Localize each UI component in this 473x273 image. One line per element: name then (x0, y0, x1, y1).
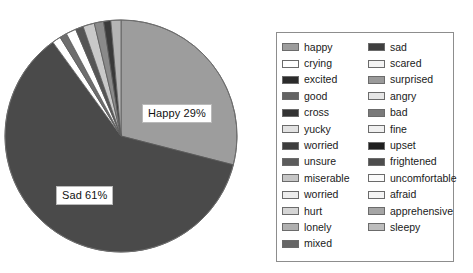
legend-item[interactable]: afraid (368, 187, 452, 203)
legend-item-label: worried (304, 140, 338, 151)
legend-columns: happycryingexcitedgoodcrossyuckyworriedu… (282, 39, 452, 257)
legend-item-label: fine (390, 124, 407, 135)
legend-item-label: mixed (304, 238, 332, 249)
legend-item[interactable]: sleepy (368, 219, 452, 235)
legend-item-label: sleepy (390, 222, 420, 233)
legend-item-label: lonely (304, 222, 331, 233)
legend-swatch-icon (368, 207, 385, 215)
legend-column: happycryingexcitedgoodcrossyuckyworriedu… (282, 39, 360, 257)
legend-swatch-icon (282, 223, 299, 231)
legend-item-label: afraid (390, 189, 416, 200)
legend-item[interactable]: fine (368, 121, 452, 137)
legend-swatch-icon (368, 174, 385, 182)
legend-item[interactable]: mixed (282, 236, 360, 252)
legend-item-label: excited (304, 74, 337, 85)
legend-item-label: yucky (304, 124, 331, 135)
pie-chart: Happy 29% Sad 61% (0, 0, 265, 273)
legend-item-label: unsure (304, 156, 336, 167)
legend-item[interactable]: happy (282, 39, 360, 55)
legend-item-label: miserable (304, 173, 350, 184)
legend-item-label: upset (390, 140, 416, 151)
legend-item[interactable]: lonely (282, 219, 360, 235)
legend-item[interactable]: good (282, 88, 360, 104)
legend-swatch-icon (368, 76, 385, 84)
legend-item-label: worried (304, 189, 338, 200)
legend-item[interactable]: uncomfortable (368, 170, 452, 186)
legend-item-label: good (304, 91, 327, 102)
legend-item[interactable]: sad (368, 39, 452, 55)
legend-swatch-icon (368, 223, 385, 231)
legend-swatch-icon (282, 191, 299, 199)
pie-label-happy: Happy 29% (142, 104, 212, 123)
legend-item[interactable]: unsure (282, 154, 360, 170)
legend-item[interactable]: frightened (368, 154, 452, 170)
legend-swatch-icon (368, 109, 385, 117)
legend-item-label: uncomfortable (390, 173, 457, 184)
chart-screenshot: Happy 29% Sad 61% happycryingexcitedgood… (0, 0, 473, 273)
legend-item[interactable]: worried (282, 137, 360, 153)
legend-item[interactable]: miserable (282, 170, 360, 186)
legend-item-label: cross (304, 107, 329, 118)
legend-item-label: scared (390, 58, 422, 69)
legend-item[interactable]: excited (282, 72, 360, 88)
legend-item[interactable]: cross (282, 105, 360, 121)
legend-item-label: hurt (304, 206, 322, 217)
legend-swatch-icon (368, 142, 385, 150)
legend-item-label: surprised (390, 74, 433, 85)
legend-swatch-icon (368, 158, 385, 166)
pie-chart-svg (0, 0, 265, 273)
legend-swatch-icon (282, 109, 299, 117)
legend-item[interactable]: yucky (282, 121, 360, 137)
legend-item[interactable]: scared (368, 55, 452, 71)
pie-label-sad: Sad 61% (56, 186, 113, 205)
legend-item[interactable]: upset (368, 137, 452, 153)
legend-swatch-icon (368, 92, 385, 100)
legend-column: sadscaredsurprisedangrybadfineupsetfrigh… (368, 39, 452, 257)
legend-item-label: bad (390, 107, 408, 118)
legend-swatch-icon (282, 174, 299, 182)
legend-item-label: angry (390, 91, 416, 102)
legend-swatch-icon (368, 60, 385, 68)
legend-swatch-icon (282, 43, 299, 51)
pie-slices (5, 20, 237, 252)
legend-swatch-icon (368, 125, 385, 133)
legend-item-label: apprehensive (390, 206, 453, 217)
legend-item[interactable]: apprehensive (368, 203, 452, 219)
legend-swatch-icon (282, 92, 299, 100)
legend-swatch-icon (282, 60, 299, 68)
legend-item-label: happy (304, 42, 333, 53)
legend-item[interactable]: bad (368, 105, 452, 121)
legend-swatch-icon (368, 43, 385, 51)
legend-swatch-icon (368, 191, 385, 199)
legend-item[interactable]: crying (282, 55, 360, 71)
legend-item[interactable]: angry (368, 88, 452, 104)
legend-swatch-icon (282, 240, 299, 248)
legend-item[interactable]: worried (282, 187, 360, 203)
legend-item-label: frightened (390, 156, 437, 167)
legend-item-label: crying (304, 58, 332, 69)
legend-swatch-icon (282, 207, 299, 215)
legend-swatch-icon (282, 142, 299, 150)
legend: happycryingexcitedgoodcrossyuckyworriedu… (276, 32, 454, 262)
legend-item[interactable]: surprised (368, 72, 452, 88)
legend-item-label: sad (390, 42, 407, 53)
legend-item[interactable]: hurt (282, 203, 360, 219)
legend-swatch-icon (282, 125, 299, 133)
legend-swatch-icon (282, 158, 299, 166)
legend-swatch-icon (282, 76, 299, 84)
